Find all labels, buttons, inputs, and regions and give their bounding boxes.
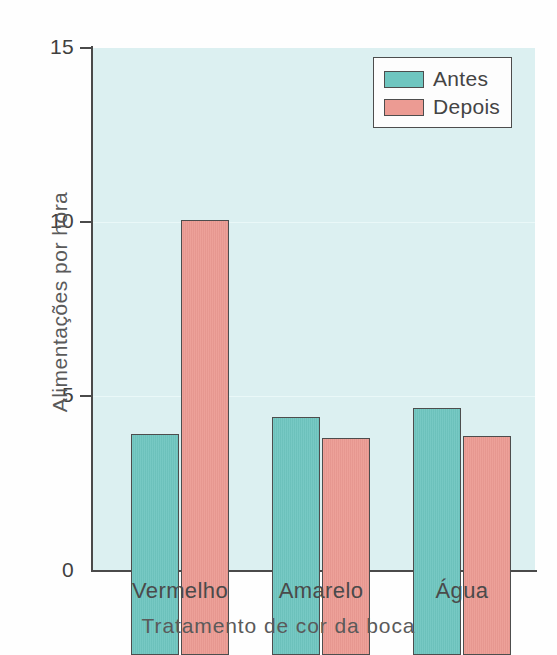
y-axis-title: Alimentações por hora	[48, 122, 72, 482]
x-tick-label-amarelo: Amarelo	[251, 578, 391, 604]
y-tick-label-0-wrap: 0	[28, 558, 74, 584]
legend-item-depois: Depois	[384, 93, 511, 121]
x-tick-label-vermelho: Vermelho	[110, 578, 250, 604]
y-tick-label-15-wrap: 15	[28, 35, 74, 61]
y-tick-label-0: 0	[28, 558, 74, 582]
y-tick-5	[80, 395, 92, 397]
y-tick-10	[80, 221, 92, 223]
legend-label-depois: Depois	[433, 95, 500, 119]
legend: Antes Depois	[373, 57, 512, 128]
gridline-10	[92, 222, 535, 223]
x-tick-label-agua: Água	[392, 578, 532, 604]
legend-label-antes: Antes	[433, 67, 488, 91]
legend-item-antes: Antes	[384, 65, 511, 93]
y-tick-label-15: 15	[28, 35, 74, 59]
x-axis-title: Tratamento de cor da boca	[0, 614, 557, 638]
legend-swatch-antes-icon	[384, 71, 424, 88]
legend-swatch-depois-icon	[384, 99, 424, 116]
chart-figure: 15 10 5 0 Vermelho Amarelo Água Tratamen…	[0, 0, 557, 655]
y-tick-15	[80, 47, 92, 49]
gridline-5	[92, 396, 535, 397]
y-axis-line	[91, 46, 93, 572]
